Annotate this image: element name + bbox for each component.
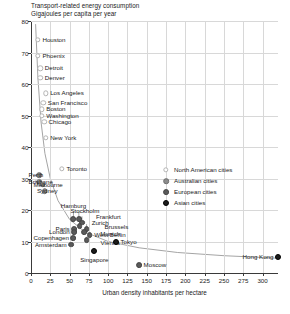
point-label-houston: Houston [42, 37, 65, 44]
trend-curve [36, 24, 278, 258]
point-label-new-york: New York [50, 134, 76, 141]
y-tick-label: 80 [22, 18, 29, 25]
data-point-amsterdam[interactable] [68, 242, 74, 248]
point-label-los-angeles: Los Angeles [50, 90, 84, 97]
point-label-denver: Denver [45, 74, 65, 81]
chart-title: Transport-related energy consumption [31, 2, 139, 10]
legend-label: European cities [174, 188, 217, 195]
point-label-chicago: Chicago [49, 119, 72, 126]
data-point-singapore[interactable] [91, 248, 97, 254]
legend-label: Asian cities [174, 199, 205, 206]
y-tick-label: 70 [22, 49, 29, 56]
data-point-hong-kong[interactable] [275, 254, 281, 260]
chart-title-block: Transport-related energy consumption Gig… [31, 2, 139, 18]
y-tick-label: 40 [22, 144, 29, 151]
y-gridline [31, 84, 278, 85]
point-label-sydney: Sydney [37, 188, 58, 195]
y-tick-label: 60 [22, 81, 29, 88]
y-gridline [31, 53, 278, 54]
x-tick-label: 200 [180, 277, 190, 284]
scatter-chart: Transport-related energy consumption Gig… [0, 0, 290, 314]
plot-area: 0255075100125150175200225250275300010203… [31, 21, 278, 273]
chart-subtitle: Gigajoules per capita per year [31, 10, 139, 18]
y-gridline [31, 21, 278, 22]
y-tick-label: 30 [22, 175, 29, 182]
point-label-amsterdam: Amsterdam [35, 241, 67, 248]
legend-marker-icon [163, 178, 169, 184]
y-gridline [31, 179, 278, 180]
point-label-detroit: Detroit [45, 65, 63, 72]
y-tick-label: 20 [22, 207, 29, 214]
x-tick-label: 125 [122, 277, 132, 284]
legend-label: North American cities [174, 166, 232, 173]
point-label-moscow: Moscow [144, 262, 167, 269]
point-label-toronto: Toronto [66, 166, 87, 173]
point-label-tokyo: Tokyo [120, 238, 136, 245]
x-tick-label: 0 [29, 277, 32, 284]
y-tick-label: 0 [25, 270, 28, 277]
x-tick-label: 175 [161, 277, 171, 284]
legend-marker-icon [163, 189, 169, 195]
x-tick-label: 225 [200, 277, 210, 284]
point-label-phoenix: Phoenix [42, 52, 64, 59]
y-tick-label: 10 [22, 238, 29, 245]
x-tick-label: 75 [85, 277, 92, 284]
data-point-copenhagen[interactable] [71, 235, 77, 241]
data-point-vienna[interactable] [84, 237, 90, 243]
x-axis-label: Urban density inhabitants per hectare [31, 289, 278, 296]
legend-marker-icon [163, 200, 169, 206]
x-tick-label: 300 [257, 277, 267, 284]
data-point-zurich[interactable] [77, 223, 83, 229]
x-tick-label: 150 [142, 277, 152, 284]
data-point-tokyo[interactable] [113, 239, 119, 245]
x-tick-label: 100 [103, 277, 113, 284]
x-tick-label: 50 [66, 277, 73, 284]
y-gridline [31, 210, 278, 211]
x-tick-label: 250 [219, 277, 229, 284]
y-gridline [31, 147, 278, 148]
legend-label: Australian cities [174, 177, 217, 184]
point-label-singapore: Singapore [80, 257, 108, 264]
x-axis-line [31, 273, 278, 274]
x-tick-label: 25 [47, 277, 54, 284]
x-tick-label: 275 [238, 277, 248, 284]
data-point-london[interactable] [71, 229, 77, 235]
point-label-hong-kong: Hong Kong [243, 254, 274, 261]
y-tick-label: 50 [22, 112, 29, 119]
data-point-moscow[interactable] [136, 262, 142, 268]
